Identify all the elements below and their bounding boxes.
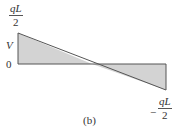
figure-caption: (b) xyxy=(83,115,96,126)
shear-diagram: qL 2 V 0 − qL 2 (b) xyxy=(0,0,179,133)
min-shear-sign: − xyxy=(150,107,156,118)
max-shear-denominator: 2 xyxy=(9,16,23,28)
min-shear-denominator: 2 xyxy=(158,109,172,121)
min-shear-numerator: qL xyxy=(158,96,172,109)
zero-label: 0 xyxy=(6,59,12,70)
min-shear-label: qL 2 xyxy=(158,96,172,121)
max-shear-label: qL 2 xyxy=(9,3,23,28)
axis-label-v: V xyxy=(6,40,13,51)
max-shear-numerator: qL xyxy=(9,3,23,16)
